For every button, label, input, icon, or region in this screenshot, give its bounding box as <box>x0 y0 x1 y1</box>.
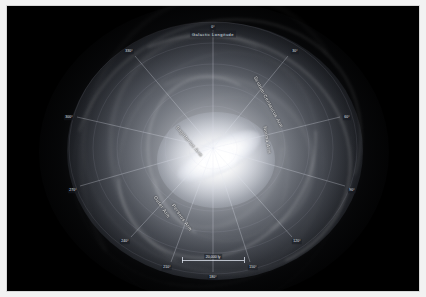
longitude-tick-label: 240° <box>120 239 130 244</box>
scale-bar: 20,000 ly <box>182 254 244 264</box>
scale-bar-label: 20,000 ly <box>204 254 222 259</box>
scale-bar-tick-left <box>182 257 183 263</box>
longitude-tick-label: 60° <box>343 115 351 120</box>
longitude-tick-label: 0° <box>210 25 216 30</box>
galaxy-image-plate: Galactic Longitude 0° 30° 60° 90° 120° 1… <box>7 6 419 291</box>
longitude-tick-label: 120° <box>292 239 302 244</box>
figure-container: Galactic Longitude 0° 30° 60° 90° 120° 1… <box>0 0 426 297</box>
longitude-tick-label: 300° <box>64 115 74 120</box>
scale-bar-rule <box>182 260 244 261</box>
longitude-tick-label: 330° <box>124 49 134 54</box>
galactic-longitude-title: Galactic Longitude <box>190 31 236 38</box>
longitude-tick-label: 270° <box>68 188 78 193</box>
longitude-tick-label: 210° <box>162 265 172 270</box>
scale-bar-tick-right <box>244 257 245 263</box>
galactic-longitude-grid <box>7 6 419 291</box>
longitude-tick-label: 180° <box>208 275 218 280</box>
longitude-tick-label: 90° <box>348 188 356 193</box>
longitude-tick-label: 30° <box>291 49 299 54</box>
longitude-tick-label: 150° <box>248 265 258 270</box>
